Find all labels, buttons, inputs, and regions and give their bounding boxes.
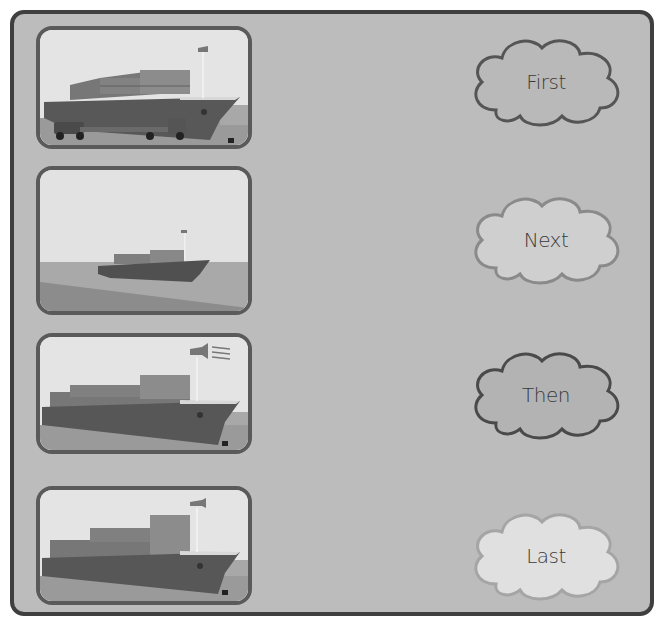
ship-horn-illustration bbox=[40, 337, 248, 450]
cloud-label-first: First bbox=[466, 32, 626, 132]
cloud-last[interactable]: Last bbox=[466, 506, 626, 606]
panel-ship-docked[interactable] bbox=[36, 486, 252, 605]
cloud-next[interactable]: Next bbox=[466, 190, 626, 290]
ship-at-sea-illustration bbox=[40, 170, 248, 311]
cloud-then[interactable]: Then bbox=[466, 345, 626, 445]
panel-ship-loading[interactable] bbox=[36, 26, 252, 149]
cloud-label-then: Then bbox=[466, 345, 626, 445]
cloud-label-next: Next bbox=[466, 190, 626, 290]
ship-docked-illustration bbox=[40, 490, 248, 601]
panel-ship-horn[interactable] bbox=[36, 333, 252, 454]
cloud-label-last: Last bbox=[466, 506, 626, 606]
cloud-first[interactable]: First bbox=[466, 32, 626, 132]
ship-loading-illustration bbox=[40, 30, 248, 145]
panel-ship-at-sea[interactable] bbox=[36, 166, 252, 315]
